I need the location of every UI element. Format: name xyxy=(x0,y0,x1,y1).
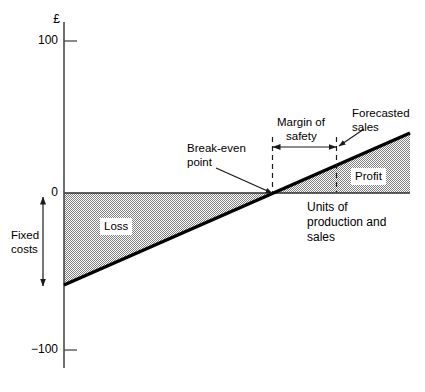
x-axis-label-line2: production and xyxy=(307,215,386,229)
break-even-point-label-line2: point xyxy=(187,155,212,169)
break-even-leader-line xyxy=(216,168,272,193)
y-axis-unit-label: £ xyxy=(44,12,60,26)
chart-canvas xyxy=(0,0,425,392)
margin-of-safety-label-line2: safety xyxy=(286,129,317,143)
forecasted-sales-label-line2: sales xyxy=(352,120,379,134)
x-axis-label-line1: Units of xyxy=(307,200,348,214)
break-even-point-label-line1: Break-even xyxy=(187,141,246,155)
fixed-costs-label-line2: costs xyxy=(11,242,38,256)
loss-region-label: Loss xyxy=(100,218,132,235)
margin-of-safety-label-line1: Margin of xyxy=(277,115,325,129)
x-axis-label-line3: sales xyxy=(307,230,335,244)
y-tick-label-0: 0 xyxy=(24,185,58,199)
y-tick-label-100: 100 xyxy=(24,33,58,47)
profit-region-label: Profit xyxy=(351,168,386,185)
forecasted-sales-label-line1: Forecasted xyxy=(352,106,410,120)
break-even-chart: £ 100 0 −100 Fixed costs Loss Break-even… xyxy=(0,0,425,392)
y-tick-label-minus-100: −100 xyxy=(18,342,58,356)
fixed-costs-label-line1: Fixed xyxy=(11,228,39,242)
